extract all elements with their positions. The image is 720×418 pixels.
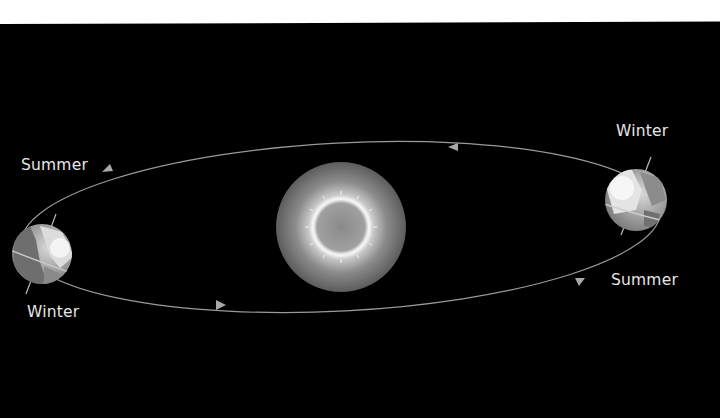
orbit-diagram <box>0 0 720 418</box>
label-summer-left: Summer <box>21 158 88 174</box>
earth-left <box>10 214 74 294</box>
label-summer-right: Summer <box>611 273 678 289</box>
label-winter-left: Winter <box>27 305 79 321</box>
sun <box>276 162 406 292</box>
label-winter-right: Winter <box>616 124 668 140</box>
earth-right <box>604 157 668 235</box>
